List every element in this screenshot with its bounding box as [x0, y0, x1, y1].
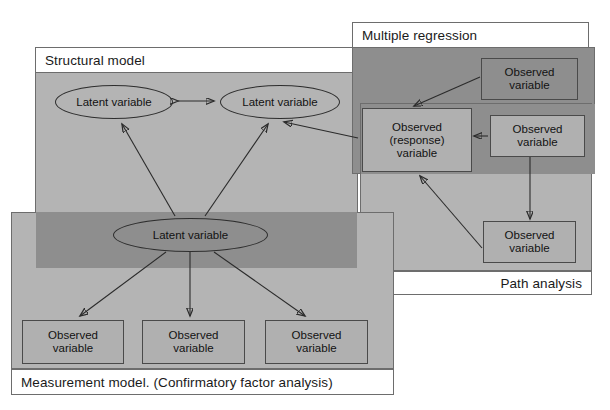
panel-measurement-model-footer: Measurement model. (Confirmatory factor … [11, 369, 394, 395]
node-label: Latent variable [153, 229, 228, 242]
node-label: Latent variable [242, 96, 317, 109]
panel-multiple-regression-header: Multiple regression [352, 22, 589, 48]
node-label: Observed variable [48, 329, 98, 355]
panel-path-analysis-footer: Path analysis [360, 271, 592, 295]
node-label: Observed variable [513, 123, 563, 149]
panel-structural-model-header: Structural model [35, 47, 358, 73]
multiple-regression-title: Multiple regression [362, 28, 477, 43]
node-observed-variable-pa-right[interactable]: Observed variable [490, 115, 585, 157]
node-observed-variable-mr-top[interactable]: Observed variable [481, 58, 578, 100]
node-observed-variable-mm-3[interactable]: Observed variable [265, 320, 368, 364]
node-latent-variable-center[interactable]: Latent variable [113, 218, 268, 252]
node-label: Observed variable [505, 229, 555, 255]
node-observed-variable-pa-bottom[interactable]: Observed variable [483, 221, 576, 263]
node-observed-variable-mm-2[interactable]: Observed variable [142, 320, 245, 364]
node-observed-variable-mm-1[interactable]: Observed variable [22, 320, 124, 364]
measurement-model-title: Measurement model. (Confirmatory factor … [21, 375, 333, 390]
node-label: Observed (response) variable [390, 121, 445, 160]
path-analysis-title: Path analysis [500, 276, 582, 291]
node-label: Latent variable [76, 96, 151, 109]
node-latent-variable-left[interactable]: Latent variable [55, 85, 173, 119]
node-latent-variable-right[interactable]: Latent variable [220, 85, 340, 119]
diagram-canvas: Structural model Multiple regression Pat… [0, 0, 610, 410]
structural-model-title: Structural model [45, 53, 145, 68]
node-label: Observed variable [292, 329, 342, 355]
node-label: Observed variable [169, 329, 219, 355]
node-observed-response-variable[interactable]: Observed (response) variable [362, 108, 472, 172]
node-label: Observed variable [505, 66, 555, 92]
